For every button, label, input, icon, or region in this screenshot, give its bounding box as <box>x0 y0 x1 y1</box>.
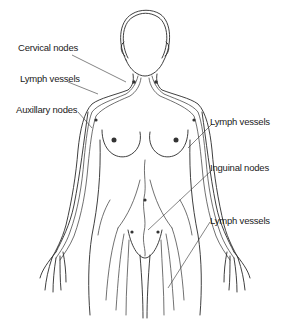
leader-cervical-nodes <box>72 55 126 82</box>
label-auxillary-nodes: Auxillary nodes <box>16 104 77 115</box>
label-lymph-vessels-arm: Lymph vessels <box>210 116 270 127</box>
right-hand <box>224 252 250 292</box>
label-inguinal-nodes: Inguinal nodes <box>210 162 269 173</box>
label-lymph-vessels-leg: Lymph vessels <box>210 215 270 226</box>
label-cervical-nodes: Cervical nodes <box>18 42 78 53</box>
leader-inguinal-nodes <box>148 170 212 230</box>
leader-lymph-vessels-arm <box>188 124 212 148</box>
head-outline <box>121 10 170 76</box>
left-hand <box>40 252 66 292</box>
lymphatic-system-diagram: Cervical nodes Lymph vessels Auxillary n… <box>0 0 283 320</box>
lymph-vessels <box>56 76 234 315</box>
lymph-nodes <box>94 80 195 233</box>
label-lymph-vessels-neck: Lymph vessels <box>20 73 80 84</box>
leader-lymph-vessels-leg <box>168 222 210 288</box>
torso-outline <box>52 74 238 318</box>
